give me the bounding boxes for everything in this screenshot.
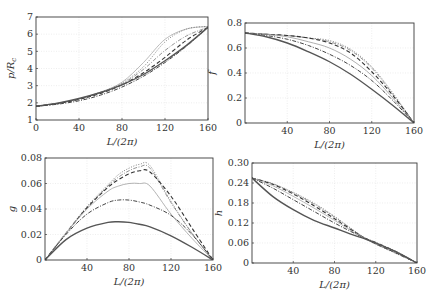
x-tick-label: 80	[323, 125, 335, 136]
y-tick-label: 7	[27, 11, 33, 22]
x-tick-label: 40	[287, 265, 299, 276]
x-axis-label: L/(2π)	[113, 276, 145, 287]
x-tick-label: 160	[204, 262, 222, 273]
y-tick-label: 2	[27, 97, 33, 108]
y-tick-label: 6	[27, 28, 33, 39]
subplot-f: 408012016000.20.40.60.8L/(2π)f	[206, 17, 423, 150]
y-tick-label: 0.08	[21, 152, 42, 163]
series-solid-light	[36, 26, 208, 106]
y-tick-label: 0.04	[21, 203, 42, 214]
x-axis-label: L/(2π)	[318, 279, 350, 290]
y-tick-label: 0	[36, 254, 42, 265]
x-tick-label: 120	[367, 265, 385, 276]
x-axis-label: L/(2π)	[106, 136, 138, 147]
x-tick-label: 80	[116, 122, 128, 133]
x-tick-label: 160	[405, 125, 423, 136]
y-tick-label: 0.8	[227, 17, 242, 28]
subplot-g: 408012016000.020.040.060.08L/(2π)g	[6, 152, 222, 287]
y-tick-label: 0.4	[227, 67, 242, 78]
x-tick-label: 120	[162, 262, 180, 273]
x-tick-label: 40	[81, 262, 93, 273]
y-tick-label: 0.30	[228, 157, 249, 168]
y-tick-label: 4	[27, 63, 33, 74]
subplot-h: 408012016000.060.120.180.240.30L/(2π)h	[213, 157, 426, 290]
x-tick-label: 120	[363, 125, 381, 136]
y-tick-label: 5	[27, 46, 33, 57]
y-tick-label: 0	[236, 117, 242, 128]
y-tick-label: 0.24	[228, 177, 249, 188]
x-tick-label: 80	[328, 265, 340, 276]
y-tick-label: 0.12	[228, 217, 249, 228]
x-tick-label: 80	[123, 262, 135, 273]
x-tick-label: 40	[73, 122, 85, 133]
y-tick-label: 0.2	[227, 92, 242, 103]
y-tick-label: 0	[243, 257, 249, 268]
y-tick-label: 0.02	[21, 229, 42, 240]
x-tick-label: 40	[281, 125, 293, 136]
y-tick-label: 3	[27, 80, 33, 91]
series-dashdot-dark	[36, 27, 208, 106]
x-tick-label: 160	[199, 122, 217, 133]
y-tick-label: 0.6	[227, 42, 242, 53]
y-axis-label: h	[213, 210, 224, 216]
y-axis-label: p/Rc	[5, 58, 18, 79]
x-tick-label: 160	[408, 265, 426, 276]
subplot-p: 040801201601234567L/(2π)p/Rc	[5, 11, 217, 147]
y-axis-label: g	[6, 206, 17, 212]
y-tick-label: 0.18	[228, 197, 249, 208]
series-dashed	[36, 27, 208, 106]
y-tick-label: 0.06	[21, 178, 42, 189]
y-tick-label: 0.06	[228, 237, 249, 248]
x-tick-label: 120	[156, 122, 174, 133]
x-axis-label: L/(2π)	[313, 139, 345, 150]
y-tick-label: 1	[27, 114, 33, 125]
series-dotted	[36, 26, 208, 106]
x-tick-label: 0	[33, 122, 39, 133]
series-solid	[36, 27, 208, 106]
figure: 040801201601234567L/(2π)p/Rc 40801201600…	[0, 0, 431, 298]
series-dashdot-light	[36, 27, 208, 106]
